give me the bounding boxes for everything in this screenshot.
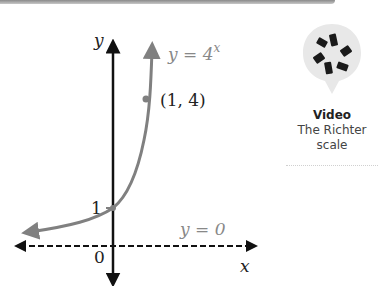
separator [286,165,378,166]
video-kind-label: Video [282,108,382,123]
point-1-4 [143,96,150,103]
exponential-graph: y x 0 1 y = 4x (1, 4) y = 0 [0,0,270,286]
function-label: y = 4x [167,41,220,64]
video-icon[interactable] [301,22,363,102]
origin-label: 0 [94,247,105,267]
video-title-line1[interactable]: The Richter [282,123,382,138]
point-label: (1, 4) [160,90,206,110]
y-intercept-label: 1 [91,198,102,218]
video-card[interactable]: Video The Richter scale [282,22,382,166]
y-axis-label: y [93,30,104,50]
asymptote-label: y = 0 [179,219,226,239]
x-axis-label: x [240,256,250,276]
video-title-line2[interactable]: scale [282,138,382,153]
y-intercept-point [110,205,116,211]
